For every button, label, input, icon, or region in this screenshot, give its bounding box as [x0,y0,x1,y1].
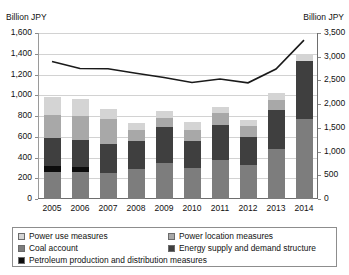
right-axis-tickmark [318,175,321,176]
legend-item-coal-account: Coal account [18,243,168,254]
legend-item-energy-supply-and-demand-structure: Energy supply and demand structure [168,243,316,254]
left-axis-tickmark [35,199,38,200]
right-axis-tickmark [318,57,321,58]
right-axis-tickmark [318,80,321,81]
line-series [38,33,318,199]
right-axis-tick-label: 1,500 [324,122,349,132]
legend-swatch-petroleum-production-and-distribution-measures [18,257,25,264]
right-axis-tick-label: 0 [324,193,349,203]
left-axis-tick-label: 200 [2,172,32,182]
right-axis-tick-label: 2,000 [324,98,349,108]
right-axis-tick-label: 3,000 [324,51,349,61]
left-axis-tickmark [35,116,38,117]
right-axis-tickmark [318,199,321,200]
legend-item-power-location-measures: Power location measures [168,231,273,242]
right-axis-tickmark [318,104,321,105]
legend-swatch-power-location-measures [168,233,175,240]
right-axis-tickmark [318,152,321,153]
left-axis-tick-label: 400 [2,152,32,162]
left-axis-tick-label: 0 [2,193,32,203]
legend: Power use measures Power location measur… [12,227,337,267]
left-axis-unit-label: Billion JPY [6,12,47,22]
legend-swatch-power-use-measures [18,233,25,240]
left-axis-tickmark [35,158,38,159]
legend-swatch-energy-supply-and-demand-structure [168,245,175,252]
plot-area [38,33,318,199]
left-axis-tickmark [35,137,38,138]
legend-row-3: Petroleum production and distribution me… [18,255,332,267]
legend-label-energy-supply-and-demand-structure: Energy supply and demand structure [179,243,316,254]
left-axis-tick-label: 600 [2,131,32,141]
left-axis-tick-label: 1,600 [2,27,32,37]
right-axis-tickmark [318,128,321,129]
legend-swatch-coal-account [18,245,25,252]
left-axis-tickmark [35,95,38,96]
legend-label-coal-account: Coal account [29,243,78,254]
left-axis-tickmark [35,178,38,179]
left-axis-tickmark [35,75,38,76]
right-axis-tickmark [318,33,321,34]
legend-item-petroleum-production-and-distribution-measures: Petroleum production and distribution me… [18,255,207,266]
left-axis-tick-label: 1,200 [2,69,32,79]
legend-row-2: Coal account Energy supply and demand st… [18,243,332,255]
left-axis-tick-label: 800 [2,110,32,120]
left-axis-tick-label: 1,400 [2,48,32,58]
legend-label-power-use-measures: Power use measures [29,231,108,242]
right-axis-tick-label: 3,500 [324,27,349,37]
x-axis-label-2014: 2014 [287,203,321,213]
left-axis-tick-label: 1,000 [2,89,32,99]
left-axis-tickmark [35,54,38,55]
legend-label-power-location-measures: Power location measures [179,231,273,242]
left-axis-tickmark [35,33,38,34]
legend-item-power-use-measures: Power use measures [18,231,168,242]
right-axis-tick-label: 2,500 [324,74,349,84]
right-axis-tick-label: 1,000 [324,146,349,156]
chart-container: Billion JPY Billion JPY 1,6001,4001,2001… [0,0,349,275]
legend-row-1: Power use measures Power location measur… [18,231,332,243]
legend-label-petroleum-production-and-distribution-measures: Petroleum production and distribution me… [29,255,207,266]
right-axis-unit-label: Billion JPY [303,12,344,22]
right-axis-tick-label: 500 [324,169,349,179]
